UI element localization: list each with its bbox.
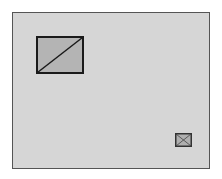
- diagonal-slash-icon: [36, 36, 84, 74]
- image-placeholder-large: [36, 36, 84, 74]
- cross-x-icon: [175, 133, 192, 147]
- image-placeholder-small: [175, 133, 192, 147]
